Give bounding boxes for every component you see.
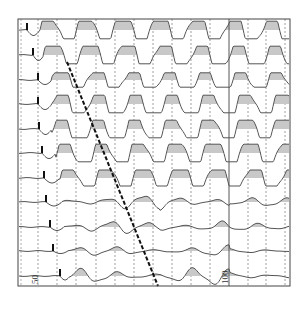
trace-fill [26, 144, 289, 153]
trace-line [19, 221, 289, 234]
arrival-pick-marker [59, 269, 61, 276]
arrival-pick-marker [52, 244, 54, 251]
arrival-pick-marker [41, 146, 43, 153]
trace-line [19, 196, 289, 210]
arrival-pick-marker [26, 23, 28, 30]
waveform-traces [19, 21, 289, 284]
arrival-pick-marker [49, 220, 51, 227]
arrival-pick-marker [43, 171, 45, 178]
arrival-pick-marker [32, 48, 34, 55]
arrival-pick-marker [38, 122, 40, 129]
trace-fill [19, 95, 289, 104]
arrival-pick-marker [45, 195, 47, 202]
trace-fill [19, 221, 289, 227]
arrival-pick-marker [37, 97, 39, 104]
x-tick-label-50: 50 [30, 275, 40, 284]
seismic-record-section [0, 0, 307, 317]
trace-line [19, 245, 289, 255]
x-tick-label-100: 100 [220, 271, 230, 285]
arrival-pick-marker [37, 73, 39, 80]
